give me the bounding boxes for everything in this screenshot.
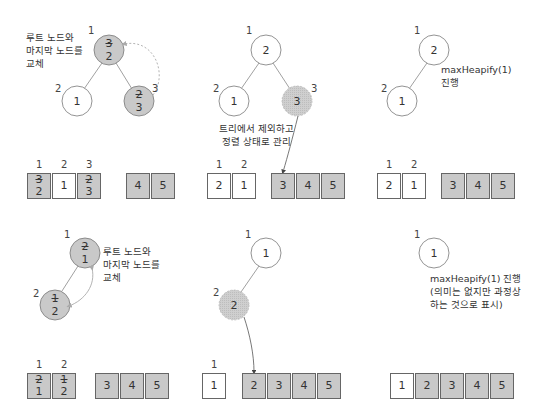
array-cell: 3 2 — [27, 173, 51, 199]
sorted-cell: 3 — [267, 373, 291, 399]
array-cell: 1 — [232, 173, 256, 199]
sorted-cell: 4 — [465, 373, 489, 399]
array-index-label: 2 — [61, 158, 67, 171]
array-cell: 1 2 — [52, 373, 76, 399]
array-cell: 2 — [207, 173, 231, 199]
sorted-cell: 4 — [126, 173, 150, 199]
sorted-cell: 4 — [120, 373, 144, 399]
swap-arrow — [69, 268, 93, 306]
move-to-sorted-arrow — [244, 317, 254, 372]
array-index-label: 1 — [211, 358, 217, 371]
panel-1-note: 루트 노드와 마지막 노드를 교체 — [26, 31, 83, 70]
array-cell: 1 — [402, 173, 426, 199]
array-index-label: 1 — [36, 358, 42, 371]
sorted-cell: 5 — [317, 373, 341, 399]
node-value: 2 3 — [124, 86, 154, 116]
panel-3-note: maxHeapify(1) 진행 — [441, 63, 511, 89]
sorted-cell: 5 — [321, 173, 345, 199]
sorted-cell: 3 — [441, 173, 465, 199]
node-value: 2 — [419, 35, 449, 65]
node-value: 1 2 — [40, 290, 70, 320]
array-cell: 1 — [52, 173, 76, 199]
array-cell: 2 3 — [77, 173, 101, 199]
panel-4-note: 루트 노드와 마지막 노드를 교체 — [103, 245, 160, 284]
sorted-cell: 3 — [440, 373, 464, 399]
node-value: 3 2 — [94, 35, 124, 65]
sorted-cell: 4 — [292, 373, 316, 399]
node-value: 2 — [219, 290, 249, 320]
node-value: 1 — [251, 238, 281, 268]
sorted-cell: 3 — [271, 173, 295, 199]
array-cell: 1 — [202, 373, 226, 399]
node-value: 1 — [62, 86, 92, 116]
node-value: 1 — [419, 238, 449, 268]
node-value: 1 — [387, 86, 417, 116]
array-index-label: 2 — [411, 158, 417, 171]
array-index-label: 1 — [216, 158, 222, 171]
sorted-cell: 5 — [490, 373, 514, 399]
array-index-label: 2 — [61, 358, 67, 371]
sorted-cell: 5 — [151, 173, 175, 199]
node-value: 2 1 — [70, 238, 100, 268]
array-cell: 2 1 — [27, 373, 51, 399]
sorted-cell: 5 — [145, 373, 169, 399]
node-value: 3 — [282, 86, 312, 116]
sorted-cell: 5 — [491, 173, 515, 199]
panel-2-note: 트리에서 제외하고 정렬 상태로 관리 — [219, 122, 294, 148]
array-index-label: 1 — [386, 158, 392, 171]
sorted-cell: 4 — [466, 173, 490, 199]
node-index-label: 2 — [55, 82, 61, 95]
sorted-cell: 2 — [415, 373, 439, 399]
node-value: 1 — [219, 86, 249, 116]
sorted-cell: 4 — [296, 173, 320, 199]
node-index-label: 2 — [33, 287, 39, 300]
node-value: 2 — [251, 35, 281, 65]
array-index-label: 2 — [241, 158, 247, 171]
sorted-cell: 2 — [242, 373, 266, 399]
array-index-label: 3 — [86, 158, 92, 171]
array-cell: 2 — [377, 173, 401, 199]
array-index-label: 1 — [36, 158, 42, 171]
panel-6-note: maxHeapify(1) 진행 (의미는 없지만 과정상 하는 것으로 표시) — [430, 272, 521, 311]
sorted-cell: 3 — [95, 373, 119, 399]
array-cell: 1 — [390, 373, 414, 399]
